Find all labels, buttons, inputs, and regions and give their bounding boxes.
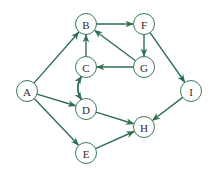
node-C: C bbox=[76, 57, 97, 78]
edge-I-H bbox=[153, 97, 183, 120]
node-F: F bbox=[134, 14, 155, 35]
edge-F-I bbox=[150, 33, 185, 82]
node-label: A bbox=[23, 86, 31, 98]
nodes: ABFCGDIHE bbox=[17, 14, 202, 164]
node-label: F bbox=[141, 19, 147, 31]
node-B: B bbox=[76, 14, 97, 35]
node-A: A bbox=[17, 81, 38, 102]
node-label: I bbox=[189, 86, 193, 98]
edge-G-B bbox=[95, 31, 136, 61]
node-label: D bbox=[82, 104, 90, 116]
edge-A-B bbox=[34, 32, 79, 83]
edge-A-E bbox=[34, 99, 78, 145]
node-H: H bbox=[134, 117, 155, 138]
node-I: I bbox=[181, 81, 202, 102]
edge-D-C bbox=[78, 76, 82, 99]
edge-E-H bbox=[96, 131, 134, 148]
edge-D-H bbox=[96, 112, 133, 124]
node-label: B bbox=[82, 19, 89, 31]
node-label: G bbox=[140, 62, 148, 74]
node-label: C bbox=[82, 62, 89, 74]
node-label: E bbox=[83, 148, 90, 160]
node-label: H bbox=[140, 122, 148, 134]
node-G: G bbox=[134, 57, 155, 78]
node-D: D bbox=[76, 99, 97, 120]
node-E: E bbox=[76, 143, 97, 164]
edges bbox=[34, 24, 185, 149]
directed-graph: ABFCGDIHE bbox=[0, 0, 211, 172]
edge-A-D bbox=[37, 94, 75, 106]
